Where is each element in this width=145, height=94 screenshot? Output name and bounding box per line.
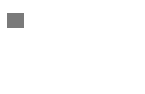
line-chart [0, 0, 145, 94]
